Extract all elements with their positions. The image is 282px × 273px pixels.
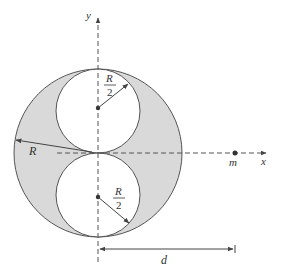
distance-label: d <box>161 253 168 267</box>
point-mass <box>233 151 238 156</box>
cavity-sphere-diagram: y x R R 2 R 2 m d <box>0 0 282 273</box>
upper-radius-denominator: 2 <box>107 86 113 98</box>
point-mass-label: m <box>229 156 237 168</box>
lower-radius-denominator: 2 <box>116 199 122 211</box>
lower-radius-numerator: R <box>114 185 122 197</box>
large-radius-label: R <box>28 144 37 158</box>
upper-radius-numerator: R <box>105 72 113 84</box>
x-axis-label: x <box>260 155 266 167</box>
y-axis-label: y <box>85 9 91 21</box>
